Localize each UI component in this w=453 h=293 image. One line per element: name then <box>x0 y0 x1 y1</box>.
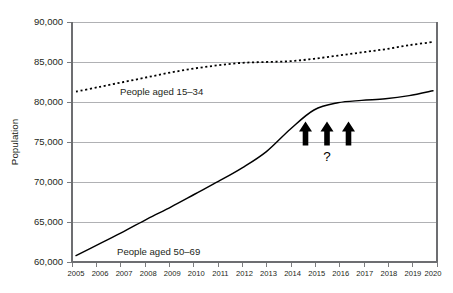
series-label-people-aged-15-34: People aged 15–34 <box>120 86 204 97</box>
y-tick-label-85000: 85,000 <box>34 56 63 67</box>
x-tick-label-2018: 2018 <box>380 269 397 278</box>
y-tick-label-60000: 60,000 <box>34 256 63 267</box>
y-axis-title: Population <box>9 119 20 165</box>
x-tick-label-2011: 2011 <box>212 269 228 278</box>
y-tick-label-90000: 90,000 <box>34 16 63 27</box>
series-label-people-aged-50-69: People aged 50–69 <box>117 246 200 257</box>
x-tick-label-2017: 2017 <box>356 269 373 278</box>
x-tick-label-2006: 2006 <box>92 269 109 278</box>
y-tick-label-75000: 75,000 <box>34 136 63 147</box>
x-tick-label-2005: 2005 <box>68 269 85 278</box>
annotation-arrows <box>299 122 355 146</box>
x-tickmarks <box>72 262 437 267</box>
x-tick-label-2012: 2012 <box>236 269 253 278</box>
y-tick-label-65000: 65,000 <box>34 216 63 227</box>
y-tick-labels: 90,000 85,000 80,000 75,000 70,000 65,00… <box>34 16 63 267</box>
x-tick-label-2008: 2008 <box>140 269 157 278</box>
x-tick-label-2020: 2020 <box>425 269 442 278</box>
x-tick-label-2019: 2019 <box>404 269 421 278</box>
y-tick-label-80000: 80,000 <box>34 96 63 107</box>
x-tick-label-2013: 2013 <box>260 269 277 278</box>
x-tick-label-2015: 2015 <box>308 269 325 278</box>
x-tick-label-2009: 2009 <box>164 269 181 278</box>
x-tick-label-2016: 2016 <box>332 269 349 278</box>
chart-canvas: 90,000 85,000 80,000 75,000 70,000 65,00… <box>0 0 453 293</box>
population-chart: 90,000 85,000 80,000 75,000 70,000 65,00… <box>0 0 453 293</box>
x-tick-label-2014: 2014 <box>284 269 301 278</box>
x-tick-labels: 2005 2006 2007 2008 2009 2010 2011 2012 … <box>68 269 442 278</box>
y-tickmarks <box>67 22 72 262</box>
y-tick-label-70000: 70,000 <box>34 176 63 187</box>
question-mark-annotation: ? <box>323 149 331 164</box>
x-tick-label-2010: 2010 <box>188 269 205 278</box>
x-tick-label-2007: 2007 <box>116 269 133 278</box>
